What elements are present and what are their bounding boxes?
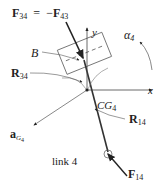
- f34-equation: F34 = −F43: [12, 7, 68, 21]
- cg-label: CG4: [97, 100, 116, 113]
- f34-arrow: [66, 22, 83, 58]
- alpha-subscript: 4: [130, 34, 134, 43]
- acceleration-arrow: [34, 90, 87, 125]
- free-body-diagram: [0, 0, 166, 186]
- cg-point: [85, 88, 88, 91]
- guide-curve-left: [62, 78, 86, 89]
- f34-subscript: 34: [19, 12, 27, 21]
- r34-label: R34: [11, 67, 28, 81]
- r14-subscript: 14: [138, 118, 146, 127]
- y-axis-label: y: [92, 27, 97, 38]
- cg-symbol: CG: [97, 99, 112, 111]
- r14-label: R14: [129, 113, 146, 127]
- equals-sign: =: [33, 6, 40, 20]
- alpha-label: α4: [124, 29, 134, 43]
- r14-symbol: R: [129, 112, 138, 126]
- f14-arrow: [108, 154, 127, 176]
- cg-subscript: 4: [112, 104, 116, 113]
- point-b-label: B: [31, 47, 38, 59]
- r34-subscript: 34: [20, 72, 28, 81]
- f14-subscript: 14: [135, 173, 143, 182]
- f43-subscript: 43: [60, 12, 68, 21]
- link-4-label: link 4: [52, 156, 77, 167]
- ag-subscript-4: 4: [21, 137, 24, 143]
- r34-leader: [30, 73, 82, 82]
- alpha-arc: [140, 42, 152, 70]
- acceleration-label: aG4: [10, 128, 24, 143]
- minus-sign: −: [46, 6, 53, 20]
- r34-symbol: R: [11, 66, 20, 80]
- x-axis-label: x: [148, 85, 153, 96]
- slider-block: [57, 32, 111, 74]
- f14-label: F14: [128, 168, 143, 182]
